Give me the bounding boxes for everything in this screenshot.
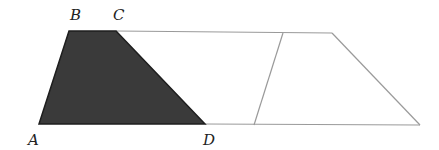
trapezoid-diagram: B C A D [0, 0, 439, 150]
label-a: A [26, 131, 39, 149]
bottom-edge [205, 124, 420, 125]
label-b: B [69, 6, 81, 24]
right-slant-edge [332, 33, 420, 125]
middle-divider [254, 33, 283, 125]
label-c: C [113, 6, 125, 24]
label-d: D [202, 131, 215, 149]
top-edge [116, 31, 332, 33]
shaded-trapezoid-abcd [39, 31, 205, 124]
